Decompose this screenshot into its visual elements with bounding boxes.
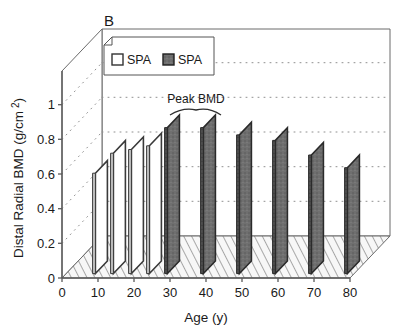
legend-label-2: SPA bbox=[178, 53, 203, 67]
bar-age-70[interactable] bbox=[309, 142, 324, 273]
bar-age-50[interactable] bbox=[237, 122, 252, 273]
x-tick-80: 80 bbox=[343, 285, 357, 300]
x-tick-10: 10 bbox=[91, 285, 105, 300]
x-tick-40: 40 bbox=[199, 285, 213, 300]
bar-age-40[interactable] bbox=[201, 115, 216, 274]
y-axis-title-end: ) bbox=[11, 98, 26, 103]
x-tick-50: 50 bbox=[235, 285, 249, 300]
y-tick-0_6: 0.6 bbox=[37, 167, 55, 182]
y-tick-labels: 0 0.2 0.4 0.6 0.8 1 bbox=[37, 97, 55, 285]
peak-bmd-label: Peak BMD bbox=[167, 92, 225, 106]
bar-age-80[interactable] bbox=[345, 155, 360, 274]
x-tick-60: 60 bbox=[271, 285, 285, 300]
bar-age-30[interactable] bbox=[165, 115, 180, 274]
bar-age-60[interactable] bbox=[273, 128, 288, 274]
y-tick-1: 1 bbox=[48, 97, 55, 112]
y-tick-0_2: 0.2 bbox=[37, 236, 55, 251]
bar-age-10[interactable] bbox=[93, 161, 108, 274]
panel-label: B bbox=[104, 12, 114, 29]
x-tick-labels: 0 10 20 30 40 50 60 70 80 bbox=[58, 285, 357, 300]
y-tick-0_8: 0.8 bbox=[37, 132, 55, 147]
x-axis-title: Age (y) bbox=[184, 310, 228, 325]
legend-label-1: SPA bbox=[127, 53, 152, 67]
legend-entry-spa-filled[interactable]: SPA bbox=[163, 53, 203, 67]
legend-entry-spa-open[interactable]: SPA bbox=[112, 53, 152, 67]
figure-panel-b: 0 0.2 0.4 0.6 0.8 1 0 10 20 30 40 50 bbox=[0, 0, 395, 334]
y-axis-title-main: Distal Radial BMD (g/cm bbox=[11, 111, 26, 258]
x-tick-20: 20 bbox=[127, 285, 141, 300]
x-tick-0: 0 bbox=[58, 285, 65, 300]
legend[interactable]: SPA SPA bbox=[104, 37, 214, 75]
legend-swatch-open-box-icon bbox=[112, 54, 123, 65]
y-tick-0: 0 bbox=[48, 271, 55, 286]
x-tick-30: 30 bbox=[163, 285, 177, 300]
bar-age-25[interactable] bbox=[147, 133, 162, 273]
legend-swatch-filled-box-icon bbox=[163, 54, 174, 65]
svg-text:Distal Radial BMD (g/cm2): Distal Radial BMD (g/cm2) bbox=[10, 98, 26, 258]
bar-age-20[interactable] bbox=[129, 137, 144, 274]
y-axis-title: Distal Radial BMD (g/cm2) bbox=[10, 98, 26, 258]
bmd-3d-bar-chart: 0 0.2 0.4 0.6 0.8 1 0 10 20 30 40 50 bbox=[0, 0, 395, 334]
y-tick-0_4: 0.4 bbox=[37, 201, 55, 216]
x-tick-70: 70 bbox=[307, 285, 321, 300]
bar-age-15[interactable] bbox=[111, 141, 126, 274]
